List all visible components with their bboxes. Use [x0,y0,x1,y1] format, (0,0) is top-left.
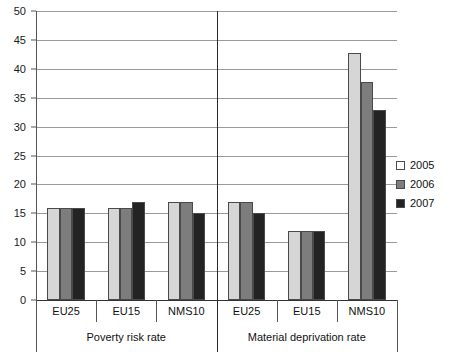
category-axis-edge [36,300,37,352]
category-label: NMS10 [349,305,386,317]
bar [253,213,265,300]
bar [240,202,252,300]
bar [373,110,385,300]
bar [313,231,325,300]
bar [193,213,205,300]
y-axis-tick-label: 40 [0,63,26,75]
y-axis-tick-label: 50 [0,5,26,17]
bar [47,208,59,300]
y-axis-tick-label: 0 [0,294,26,306]
bar [72,208,84,300]
group-label: Poverty risk rate [87,331,166,343]
group-divider [217,11,218,352]
category-separator [156,300,157,322]
bar [228,202,240,300]
bar [288,231,300,300]
y-axis-tick-label: 5 [0,265,26,277]
category-label: EU15 [112,305,140,317]
category-separator [277,300,278,322]
legend: 200520062007 [396,158,454,215]
y-axis-tick-label: 45 [0,34,26,46]
y-axis-line [36,11,37,300]
bar [168,202,180,300]
legend-item: 2007 [396,196,454,211]
bar [120,208,132,300]
y-axis-tick-label: 25 [0,150,26,162]
bar [348,53,360,300]
legend-item: 2006 [396,177,454,192]
legend-item: 2005 [396,158,454,173]
bar [361,82,373,300]
y-axis-tick-label: 35 [0,92,26,104]
category-label: EU25 [233,305,261,317]
category-label: EU25 [52,305,80,317]
bar [301,231,313,300]
bar [180,202,192,300]
bar [132,202,144,300]
group-label: Material deprivation rate [248,331,366,343]
legend-label: 2007 [410,198,434,209]
legend-swatch [396,161,405,170]
y-axis-tick-label: 30 [0,121,26,133]
category-separator [337,300,338,322]
category-axis-edge [397,300,398,352]
bar [108,208,120,300]
category-separator [96,300,97,322]
legend-label: 2005 [410,160,434,171]
bar [60,208,72,300]
category-label: EU15 [293,305,321,317]
y-axis-tick-label: 15 [0,207,26,219]
y-axis-tick-label: 10 [0,236,26,248]
legend-swatch [396,180,405,189]
bar-chart: 05101520253035404550 EU25EU15NMS10EU25EU… [0,0,456,355]
category-label: NMS10 [168,305,205,317]
legend-label: 2006 [410,179,434,190]
y-axis-tick-label: 20 [0,178,26,190]
legend-swatch [396,199,405,208]
